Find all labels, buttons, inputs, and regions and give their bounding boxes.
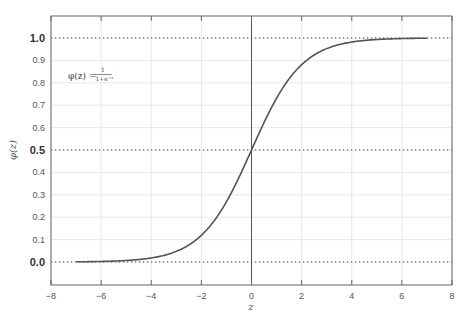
x-tick-label: 2 (299, 291, 304, 301)
formula-numerator: 1 (101, 66, 105, 73)
x-tick-label: −2 (196, 291, 206, 301)
formula-annotation: φ(z) = 1 1+e−z (68, 66, 113, 82)
x-tick-label: −6 (96, 291, 106, 301)
y-tick-label: 0.9 (32, 55, 45, 65)
x-tick-label: −8 (46, 291, 56, 301)
formula-lhs: φ(z) = (68, 71, 96, 81)
sigmoid-chart: −8−6−4−202468 0.00.10.20.30.40.50.60.70.… (0, 0, 476, 323)
y-axis-ticks: 0.00.10.20.30.40.50.60.70.80.91.0 (30, 32, 45, 268)
formula-denominator: 1+e−z (96, 75, 114, 82)
y-tick-label: 1.0 (30, 32, 45, 44)
y-tick-label: 0.3 (32, 190, 45, 200)
y-tick-label: 0.7 (32, 100, 45, 110)
x-tick-label: 8 (449, 291, 454, 301)
x-axis-label: z (247, 301, 254, 312)
y-tick-label: 0.1 (32, 235, 45, 245)
y-tick-label: 0.8 (32, 78, 45, 88)
y-tick-label: 0.4 (32, 167, 45, 177)
x-tick-label: 0 (249, 291, 254, 301)
x-tick-label: 6 (399, 291, 404, 301)
y-tick-label: 0.0 (30, 256, 45, 268)
x-tick-label: −4 (146, 291, 156, 301)
y-tick-label: 0.5 (30, 144, 45, 156)
y-axis-label: φ(z) (7, 140, 18, 160)
y-tick-label: 0.2 (32, 212, 45, 222)
x-tick-label: 4 (349, 291, 354, 301)
x-axis-ticks: −8−6−4−202468 (46, 16, 455, 301)
y-tick-label: 0.6 (32, 123, 45, 133)
